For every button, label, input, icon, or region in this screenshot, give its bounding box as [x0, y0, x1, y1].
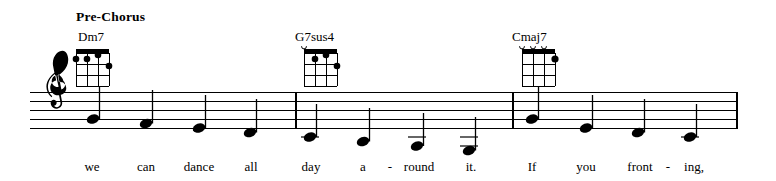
note-1 [85, 86, 100, 126]
note-12 [681, 104, 699, 144]
note-2 [138, 90, 153, 130]
lyric-syllable: ing, [684, 160, 704, 173]
note-3 [191, 95, 206, 135]
note-4 [242, 99, 257, 139]
lyric-syllable: it. [466, 160, 476, 173]
lyric-syllable: round [404, 160, 434, 173]
sheet-music-page: Pre-Chorus Dm7 G7sus4 Cmaj7 [0, 0, 776, 181]
note-8 [460, 117, 478, 157]
lyric-syllable: we [84, 160, 99, 173]
lyric-syllable: you [576, 160, 596, 173]
note-11 [630, 99, 645, 139]
note-7 [408, 113, 426, 153]
lyric-syllable: day [302, 160, 321, 173]
lyric-syllable: all [245, 160, 258, 173]
lyric-hyphen: - [666, 160, 670, 173]
note-layer [0, 0, 776, 181]
lyric-syllable: a [360, 160, 366, 173]
note-6 [355, 108, 370, 148]
lyric-syllable: If [528, 160, 537, 173]
lyric-hyphen: - [388, 160, 392, 173]
note-10 [578, 95, 593, 135]
note-5 [301, 104, 319, 144]
lyric-syllable: dance [184, 160, 214, 173]
lyric-syllable: can [137, 160, 155, 173]
lyric-syllable: front [627, 160, 652, 173]
note-9 [524, 86, 539, 126]
